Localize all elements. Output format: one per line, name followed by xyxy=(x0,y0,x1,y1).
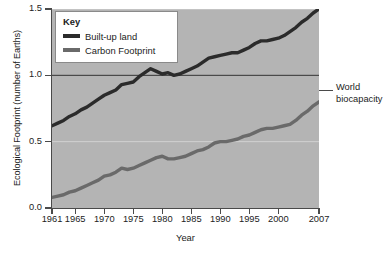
legend-swatch-icon xyxy=(63,48,80,51)
legend-item: Built-up land xyxy=(63,29,177,43)
x-tick-label: 1961 xyxy=(39,214,65,224)
x-tick-label: 1975 xyxy=(120,214,146,224)
y-tick-mark xyxy=(45,207,51,208)
x-tick-label: 2000 xyxy=(265,214,291,224)
x-tick-label: 1990 xyxy=(207,214,233,224)
legend-item-label: Built-up land xyxy=(85,31,137,42)
legend: Key Built-up landCarbon Footprint xyxy=(55,11,178,63)
y-tick-label: 0.0 xyxy=(14,202,42,212)
x-tick-label: 1965 xyxy=(62,214,88,224)
y-axis-tick-labels: 0.00.51.01.5 xyxy=(14,0,42,256)
y-tick-mark xyxy=(45,8,51,9)
x-tick-label: 2007 xyxy=(306,214,332,224)
legend-items: Built-up landCarbon Footprint xyxy=(63,29,177,57)
world-biocapacity-annotation: World biocapacity xyxy=(336,82,380,105)
y-tick-mark xyxy=(45,75,51,76)
series-line-carbon-footprint xyxy=(52,102,319,198)
legend-swatch-icon xyxy=(63,34,80,37)
legend-title: Key xyxy=(63,16,177,27)
annotation-leader-line xyxy=(319,90,333,91)
annotation-line-1: World xyxy=(336,82,380,94)
x-tick-label: 1995 xyxy=(236,214,262,224)
legend-item: Carbon Footprint xyxy=(63,43,177,57)
x-tick-label: 1970 xyxy=(91,214,117,224)
x-tick-label: 1980 xyxy=(149,214,175,224)
y-tick-label: 1.0 xyxy=(14,69,42,79)
y-tick-label: 1.5 xyxy=(14,3,42,13)
y-tick-label: 0.5 xyxy=(14,136,42,146)
y-axis-line xyxy=(51,8,52,209)
x-axis-line xyxy=(51,208,320,209)
legend-item-label: Carbon Footprint xyxy=(85,45,155,56)
y-tick-mark xyxy=(45,141,51,142)
x-axis-title: Year xyxy=(52,232,319,243)
annotation-line-2: biocapacity xyxy=(336,94,380,106)
x-tick-label: 1985 xyxy=(178,214,204,224)
